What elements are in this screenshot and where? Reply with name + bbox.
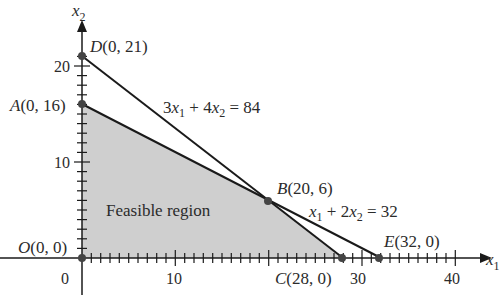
point-d-marker — [78, 52, 86, 60]
point-c-label: C(28, 0) — [275, 269, 332, 288]
equation-1-label: 3x1 + 4x2 = 84 — [163, 98, 261, 120]
tick-x-30: 30 — [350, 270, 366, 287]
point-c-marker — [338, 254, 346, 262]
point-e-label: E(32, 0) — [383, 232, 440, 251]
x-axis-label: x1 — [485, 250, 499, 273]
y-axis-label: x2 — [71, 1, 86, 24]
tick-y-10: 10 — [54, 154, 70, 171]
point-b-marker — [264, 197, 272, 205]
tick-x-10: 10 — [166, 270, 182, 287]
point-o-label: O(0, 0) — [18, 238, 67, 257]
point-o-marker — [78, 254, 86, 262]
equation-2-label: x1 + 2x2 = 32 — [308, 202, 398, 224]
feasible-region-label: Feasible region — [106, 201, 211, 220]
point-d-label: D(0, 21) — [89, 37, 148, 56]
tick-x-40: 40 — [444, 270, 460, 287]
tick-x-0: 0 — [61, 270, 69, 287]
tick-y-20: 20 — [54, 58, 70, 75]
point-e-marker — [375, 254, 383, 262]
point-a-label: A(0, 16) — [9, 96, 66, 115]
point-a-marker — [78, 100, 86, 108]
point-b-label: B(20, 6) — [277, 179, 333, 198]
feasible-region-diagram: x2 x1 0 10 30 40 10 20 D(0, 21) A(0, 16)… — [0, 0, 499, 299]
